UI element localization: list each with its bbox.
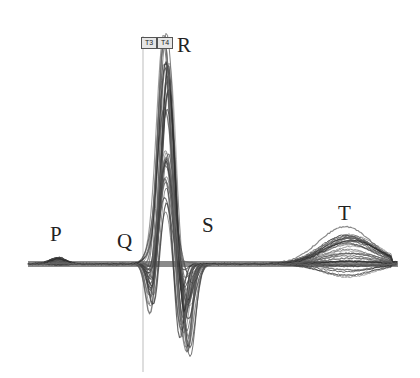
label-s: S — [202, 213, 214, 237]
marker-t3[interactable]: T3 — [141, 37, 157, 49]
ecg-trace-bundle — [28, 33, 398, 356]
ecg-waveforms: P Q R S T — [0, 0, 420, 378]
marker-t4[interactable]: T4 — [157, 37, 173, 49]
label-t: T — [338, 201, 351, 225]
label-p: P — [50, 222, 62, 246]
label-q: Q — [117, 229, 132, 253]
ecg-figure: P Q R S T T3 T4 — [0, 0, 420, 378]
label-r: R — [177, 33, 191, 57]
